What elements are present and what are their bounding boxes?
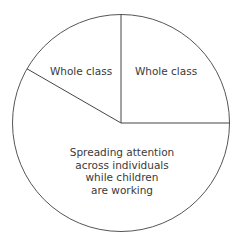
slice-label-spreading-line3: while children	[85, 171, 158, 183]
slice-label-spreading-line4: are working	[91, 184, 153, 196]
slice-label-whole-class-left: Whole class	[50, 65, 112, 77]
slice-label-spreading-line2: across individuals	[75, 159, 168, 171]
pie-chart: Whole class Whole class Spreading attent…	[0, 0, 243, 246]
slice-label-spreading-line1: Spreading attention	[70, 146, 174, 158]
slice-label-whole-class-right: Whole class	[135, 65, 197, 77]
